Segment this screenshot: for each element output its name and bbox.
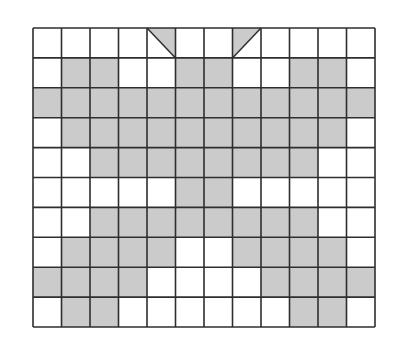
shaded-cell — [347, 267, 376, 297]
shaded-cell — [261, 237, 290, 267]
shaded-cell — [90, 148, 119, 178]
shaded-cell — [176, 58, 205, 88]
shaded-cell — [261, 118, 290, 148]
shaded-cell — [90, 58, 119, 88]
shaded-cell — [233, 88, 262, 118]
shaded-cell — [318, 237, 347, 267]
shaded-cell — [233, 237, 262, 267]
shaded-cell — [33, 267, 62, 297]
shaded-cell — [147, 207, 176, 237]
shaded-cell — [290, 207, 319, 237]
shaded-cell — [62, 237, 91, 267]
shaded-cell — [261, 267, 290, 297]
shaded-cell — [62, 88, 91, 118]
shaded-cell — [261, 88, 290, 118]
shaded-cell — [290, 88, 319, 118]
shaded-cell — [204, 178, 233, 208]
shaded-cell — [62, 267, 91, 297]
shaded-cell — [318, 267, 347, 297]
shaded-cell — [147, 88, 176, 118]
shaded-cell — [33, 88, 62, 118]
shaded-cell — [261, 207, 290, 237]
shaded-cell — [176, 88, 205, 118]
shaded-cell — [176, 148, 205, 178]
shaded-cell — [176, 207, 205, 237]
shaded-cell — [119, 207, 148, 237]
shaded-cell — [147, 118, 176, 148]
shaded-cell — [318, 118, 347, 148]
shaded-cell — [233, 207, 262, 237]
shaded-cell — [176, 178, 205, 208]
shaded-cell — [318, 297, 347, 327]
shaded-cell — [62, 297, 91, 327]
shaded-cell — [290, 237, 319, 267]
shaded-cell — [119, 118, 148, 148]
shaded-cell — [290, 58, 319, 88]
shaded-cell — [261, 148, 290, 178]
shaded-cell — [233, 118, 262, 148]
shaded-cell — [90, 88, 119, 118]
shaded-cell — [290, 148, 319, 178]
shaded-cell — [204, 118, 233, 148]
shaded-cell — [204, 88, 233, 118]
shaded-cell — [90, 297, 119, 327]
shaded-cell — [90, 207, 119, 237]
shaded-cell — [176, 118, 205, 148]
shaded-cell — [147, 237, 176, 267]
shaded-cell — [62, 118, 91, 148]
shaded-cell — [90, 267, 119, 297]
shaded-cell — [147, 148, 176, 178]
shaded-cell — [119, 237, 148, 267]
shaded-cell — [318, 58, 347, 88]
shaded-cell — [204, 207, 233, 237]
grid-diagram — [0, 0, 394, 345]
shaded-cell — [119, 148, 148, 178]
shaded-cell — [204, 58, 233, 88]
shaded-cell — [290, 118, 319, 148]
shaded-cell — [119, 267, 148, 297]
shaded-cell — [90, 237, 119, 267]
shaded-cell — [318, 88, 347, 118]
shaded-cell — [233, 148, 262, 178]
shaded-cell — [204, 148, 233, 178]
shaded-cell — [290, 267, 319, 297]
shaded-cell — [119, 88, 148, 118]
shaded-cell — [90, 118, 119, 148]
shaded-cell — [290, 297, 319, 327]
shaded-cell — [62, 58, 91, 88]
shaded-cell — [347, 88, 376, 118]
